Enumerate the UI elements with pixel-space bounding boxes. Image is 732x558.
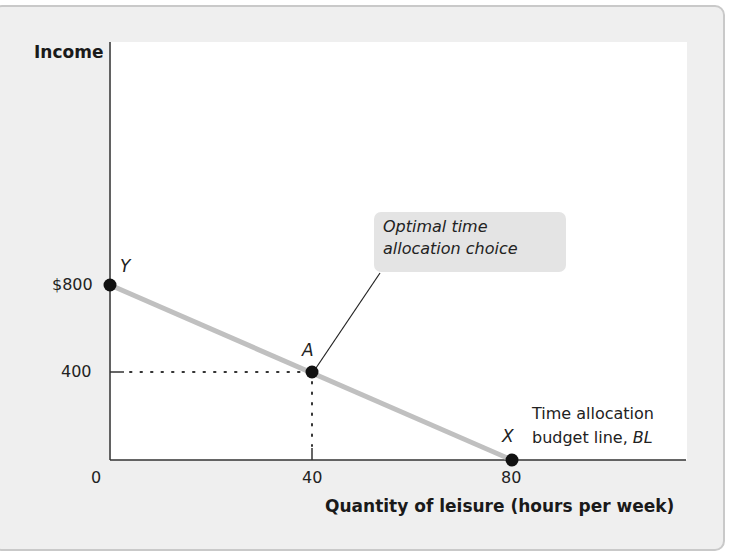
callout-leader	[316, 273, 380, 368]
callout-line-2: allocation choice	[383, 238, 518, 260]
point-a-label: A	[302, 340, 314, 360]
callout-text: Optimal time allocation choice	[383, 216, 518, 260]
x-tick-label-0: 0	[91, 468, 101, 487]
budget-line-label-bl: BL	[633, 428, 653, 447]
x-tick-label-80: 80	[501, 468, 521, 487]
x-axis-title: Quantity of leisure (hours per week)	[325, 496, 674, 516]
x-tick-label-40: 40	[302, 468, 322, 487]
point-y-label: Y	[120, 256, 130, 276]
callout-line-1: Optimal time	[383, 216, 518, 238]
point-x-label: X	[502, 426, 514, 446]
y-tick-label-800: $800	[52, 275, 93, 294]
budget-line-label-line-2: budget line, BL	[532, 426, 654, 450]
point-x-marker	[506, 454, 519, 467]
point-a-marker	[306, 366, 319, 379]
point-y-marker	[104, 279, 117, 292]
y-tick-label-400: 400	[61, 362, 92, 381]
budget-line-label: Time allocation budget line, BL	[532, 402, 654, 450]
budget-line-label-line-1: Time allocation	[532, 402, 654, 426]
budget-line-label-prefix: budget line,	[532, 428, 633, 447]
chart-svg	[0, 0, 732, 558]
y-axis-title: Income	[34, 42, 103, 62]
